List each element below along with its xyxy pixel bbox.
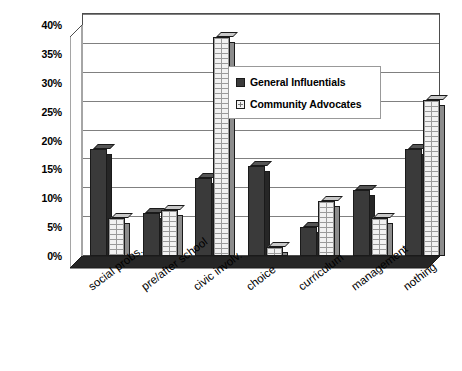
bar-column [90,149,107,256]
bar-front-face [318,201,335,256]
y-axis-tick-label: 10% [26,192,62,204]
bar-front-face [248,166,265,256]
y-axis-tick-label: 20% [26,135,62,147]
bar-side-face [440,105,445,256]
plot-area [70,25,440,268]
bar-top-face [216,32,238,37]
bar-front-face [161,210,178,256]
y-axis-tick-label: 40% [26,19,62,31]
bar-front-face [423,100,440,256]
bar-front-face [266,247,283,256]
hatched-light-square-icon [236,100,245,109]
bar-front-face [353,190,370,256]
bar-column [143,213,160,256]
bar-front-face [143,213,160,256]
bar-front-face [90,149,107,256]
gridline [83,43,439,44]
legend-item-general-influentials: General Influentials [236,76,345,88]
bar-column [108,218,125,256]
bar-top-face [426,95,448,100]
bar-column [405,149,422,256]
bar-column [353,190,370,256]
y-axis-tick-label: 0% [26,250,62,262]
solid-dark-square-icon [236,78,245,87]
bar-column [266,247,283,256]
gridline [83,130,439,131]
bar-front-face [108,218,125,256]
chart-legend: General Influentials Community Advocates [228,66,381,119]
bar-front-face [405,149,422,256]
bar-column [423,100,440,256]
bar-column [161,210,178,256]
y-axis-tick-label: 15% [26,163,62,175]
y-axis-tick-label: 35% [26,48,62,60]
legend-item-label: Community Advocates [250,98,361,110]
bar-column [300,227,317,256]
y-axis-tick-label: 30% [26,77,62,89]
bar-front-face [300,227,317,256]
bar-chart: 0%5%10%15%20%25%30%35%40% social probs.p… [0,0,462,371]
legend-item-label: General Influentials [250,76,345,88]
y-axis-tick-label: 5% [26,221,62,233]
bar-column [248,166,265,256]
bar-column [318,201,335,256]
gridline [83,158,439,159]
bar-side-face [265,171,270,256]
plot-left-wall [70,25,83,269]
bar-side-face [335,206,340,256]
legend-item-community-advocates: Community Advocates [236,98,361,110]
bar-column [371,218,388,256]
bar-side-face [283,252,288,256]
y-axis-tick-label: 25% [26,106,62,118]
bar-front-face [371,218,388,256]
gridline [83,14,439,15]
